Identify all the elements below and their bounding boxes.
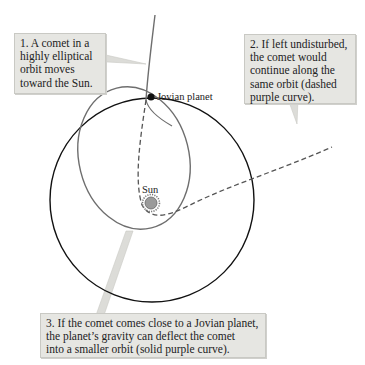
callout-1-line: highly elliptical — [20, 50, 100, 63]
callout-2-line: 2. If left undisturbed, — [250, 38, 350, 51]
callout-1-line: 1. A comet in a — [20, 37, 100, 50]
callout-2-line: same orbit (dashed — [250, 78, 350, 91]
callout-1-line: toward the Sun. — [20, 77, 100, 90]
jovian-planet-dot — [147, 93, 154, 100]
callout-3-pointer — [95, 231, 133, 318]
callout-1: 1. A comet in a highly elliptical orbit … — [14, 33, 106, 94]
comet-original-orbit-dashed — [138, 100, 332, 215]
jovian-planet-label: Jovian planet — [157, 91, 213, 102]
callout-3-line: the planet’s gravity can deflect the com… — [46, 330, 260, 343]
callout-2-line: the comet would — [250, 51, 350, 64]
callout-2-line: purple curve). — [250, 91, 350, 104]
callout-3: 3. If the comet comes close to a Jovian … — [40, 313, 266, 358]
sun-icon — [143, 195, 160, 212]
callout-3-line: into a smaller orbit (solid purple curve… — [46, 343, 260, 356]
callout-2-line: continue along the — [250, 64, 350, 77]
callout-1-line: orbit moves — [20, 63, 100, 76]
callout-2: 2. If left undisturbed, the comet would … — [244, 34, 356, 104]
comet-incoming-branch — [146, 100, 172, 126]
comet-incoming-path — [146, 15, 155, 100]
comet-deflection-diagram: Jovian planet Sun 1. A comet in a highly… — [0, 0, 365, 365]
sun-label: Sun — [142, 184, 158, 195]
callout-3-line: 3. If the comet comes close to a Jovian … — [46, 317, 260, 330]
